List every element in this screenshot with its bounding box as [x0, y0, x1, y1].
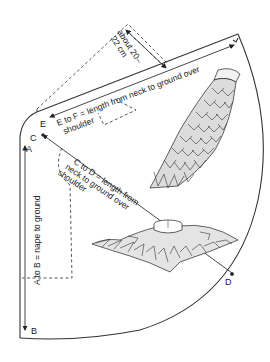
a-to-b-label: A to B = nape to ground — [32, 195, 42, 285]
point-label-c: C — [30, 133, 37, 143]
point-label-a: A — [26, 144, 32, 154]
pattern-diagram: A B C E D about 20– 22 cm E to F = lengt… — [0, 0, 270, 362]
point-label-e: E — [40, 119, 46, 129]
point-label-d: D — [225, 277, 232, 287]
point-label-b: B — [31, 326, 37, 336]
feather-cape-top-view — [92, 220, 238, 272]
